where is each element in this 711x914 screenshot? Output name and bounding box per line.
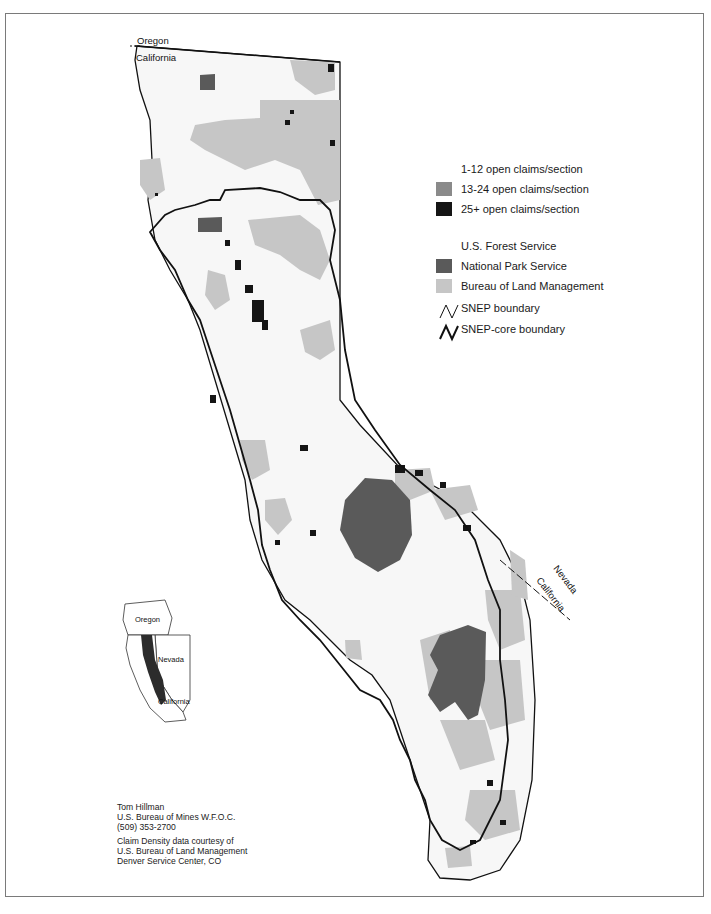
legend-claims-1-12: 1-12 open claims/section — [436, 161, 583, 177]
swatch-light — [436, 162, 452, 176]
inset-label-nevada: Nevada — [158, 655, 184, 664]
credit-source-1: Claim Density data courtesy of — [117, 836, 234, 846]
claim-density-map — [0, 0, 711, 914]
label-oregon: Oregon — [137, 35, 169, 46]
credit-agency: U.S. Bureau of Mines W.F.O.C. — [117, 812, 235, 822]
credits: Tom Hillman U.S. Bureau of Mines W.F.O.C… — [117, 802, 247, 870]
legend-blm: Bureau of Land Management — [436, 278, 604, 294]
label-california: California — [136, 52, 176, 63]
legend-national-park-service: National Park Service — [436, 258, 567, 274]
swatch-medium — [436, 182, 452, 196]
credit-author: Tom Hillman — [117, 802, 164, 812]
swatch-forest-service — [436, 239, 452, 253]
credit-source-3: Denver Service Center, CO — [117, 856, 221, 866]
credit-source-2: U.S. Bureau of Land Management — [117, 846, 247, 856]
legend-claims-13-24: 13-24 open claims/section — [436, 181, 589, 197]
inset-label-california: California — [158, 697, 190, 706]
yosemite-park — [198, 217, 222, 232]
legend-snep-core-boundary: SNEP-core boundary — [436, 321, 565, 337]
legend-snep-boundary: SNEP boundary — [436, 300, 540, 316]
credit-phone: (509) 353-2700 — [117, 822, 176, 832]
legend-claims-25-plus: 25+ open claims/section — [436, 201, 579, 217]
inset-label-oregon: Oregon — [135, 615, 160, 624]
legend-forest-service: U.S. Forest Service — [436, 238, 556, 254]
lassen-park — [200, 74, 215, 90]
swatch-national-park — [436, 259, 452, 273]
swatch-dark — [436, 202, 452, 216]
swatch-blm — [436, 279, 452, 293]
